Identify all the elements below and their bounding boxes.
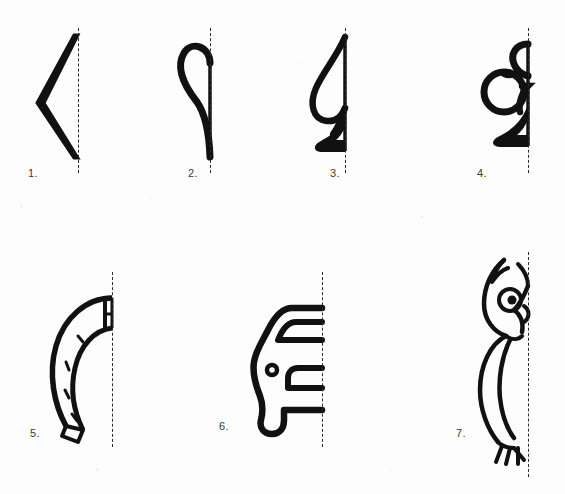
chevron-half-art <box>0 0 120 190</box>
scan-speck <box>420 215 423 218</box>
figure-label-7: 7. <box>456 427 466 439</box>
scan-speck <box>20 205 23 208</box>
mirror-line-4 <box>528 28 529 173</box>
mirror-line-3 <box>345 28 346 173</box>
figure-7-owl-half <box>440 248 565 473</box>
owl-half-art <box>440 248 565 473</box>
scan-speck <box>96 468 99 471</box>
figure-label-1: 1. <box>28 167 38 179</box>
figure-1-chevron-half <box>0 0 120 190</box>
figure-label-2: 2. <box>188 167 198 179</box>
figure-label-5: 5. <box>30 427 40 439</box>
scan-speck <box>390 470 392 472</box>
mirror-line-1 <box>78 28 79 173</box>
mirror-line-5 <box>112 272 113 447</box>
scan-speck <box>150 198 152 200</box>
symmetry-worksheet: 1. 2. 3. <box>0 0 565 494</box>
club-half-art <box>460 0 565 190</box>
figure-label-4: 4. <box>477 167 487 179</box>
mirror-line-2 <box>210 28 211 173</box>
figure-label-3: 3. <box>330 167 340 179</box>
figure-6-car-half <box>230 270 360 450</box>
car-half-art <box>230 270 360 450</box>
figure-4-club-half <box>460 0 565 190</box>
mirror-line-7 <box>528 252 529 477</box>
mirror-line-6 <box>322 272 323 447</box>
horseshoe-half-art <box>20 270 150 450</box>
figure-5-horseshoe-half <box>20 270 150 450</box>
figure-label-6: 6. <box>219 420 229 432</box>
